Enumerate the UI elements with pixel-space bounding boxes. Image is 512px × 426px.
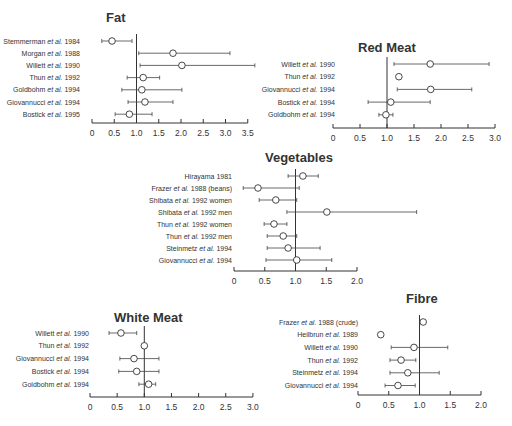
- study-row: Shibata et al. 1992 men: [158, 209, 417, 216]
- study-row: Willett et al. 1990: [35, 330, 136, 337]
- study-row: Giovannucci et al. 1994: [159, 257, 332, 264]
- study-row: Thun et al. 1992: [307, 357, 415, 364]
- study-row: Thun et al. 1992 men: [166, 233, 297, 240]
- study-label: Willett et al. 1990: [26, 62, 80, 69]
- study-label: Giovannucci et al. 1994: [159, 257, 232, 264]
- point-estimate-marker: [271, 221, 278, 228]
- x-tick-label: 2.5: [197, 128, 209, 138]
- study-row: Giovannucci et al. 1994: [16, 355, 159, 362]
- panel-title: Fibre: [406, 291, 438, 306]
- point-estimate-marker: [273, 197, 280, 204]
- study-label: Willett et al. 1990: [281, 61, 335, 68]
- x-tick-label: 1.5: [166, 402, 178, 412]
- x-tick-label: 0.5: [111, 402, 123, 412]
- study-row: Thun et al. 1992: [38, 342, 147, 349]
- study-label: Goldbohm et al. 1994: [22, 381, 89, 388]
- study-label: Willett et al. 1990: [304, 344, 358, 351]
- study-label: Shibata et al. 1992 women: [149, 197, 232, 204]
- x-tick-label: 2.0: [175, 128, 187, 138]
- point-estimate-marker: [280, 233, 287, 240]
- x-tick-label: 0: [232, 276, 237, 286]
- panel-fat: Fat Stemmerman et al. 1984Morgan et al. …: [3, 10, 255, 138]
- study-label: Shibata et al. 1992 men: [158, 209, 232, 216]
- study-row: Frazer et al. 1988 (crude): [279, 319, 426, 327]
- study-label: Bostick et al. 1994: [278, 99, 335, 106]
- x-tick-label: 0.5: [383, 400, 395, 410]
- x-tick-label: 0.5: [108, 128, 120, 138]
- x-tick-label: 1.0: [414, 400, 426, 410]
- point-estimate-marker: [179, 62, 186, 69]
- study-label: Steinmetz et al. 1994: [166, 245, 232, 252]
- x-tick-label: 0.5: [354, 133, 366, 143]
- point-estimate-marker: [293, 257, 300, 264]
- study-label: Morgan et al. 1988: [22, 50, 80, 58]
- study-label: Willett et al. 1990: [35, 330, 89, 337]
- study-row: Bostick et al. 1995: [23, 111, 152, 118]
- point-estimate-marker: [405, 370, 412, 377]
- study-label: Thun et al. 1992: [307, 357, 358, 364]
- point-estimate-marker: [131, 355, 138, 362]
- study-row: Willett et al. 1990: [281, 61, 489, 68]
- x-tick-label: 1.0: [138, 402, 150, 412]
- study-row: Goldbohm et al. 1994: [13, 86, 182, 93]
- x-axis: 00.51.01.52.0: [232, 267, 364, 286]
- panel-vegetables: Vegetables Hirayama 1981Frazer et al. 19…: [149, 150, 417, 286]
- forest-plot-figure: Fat Stemmerman et al. 1984Morgan et al. …: [0, 0, 512, 426]
- x-axis: 00.51.01.52.02.53.0: [331, 124, 502, 143]
- point-estimate-marker: [411, 344, 418, 351]
- study-label: Hirayama 1981: [185, 173, 233, 181]
- panel-title: Vegetables: [265, 150, 333, 165]
- study-label: Giovannucci et al. 1994: [262, 86, 335, 93]
- point-estimate-marker: [139, 87, 146, 94]
- x-tick-label: 0: [356, 400, 361, 410]
- study-label: Frazer et al. 1988 (beans): [151, 185, 232, 193]
- x-axis: 00.51.01.52.0: [356, 391, 488, 410]
- x-tick-label: 3.5: [242, 128, 254, 138]
- x-tick-label: 2.0: [435, 133, 447, 143]
- point-estimate-marker: [126, 111, 133, 118]
- study-row: Thun et al. 1992 women: [157, 221, 287, 228]
- study-row: Steinmetz et al. 1994: [166, 245, 320, 252]
- x-tick-label: 2.0: [193, 402, 205, 412]
- point-estimate-marker: [133, 368, 140, 375]
- point-estimate-marker: [377, 331, 384, 338]
- point-estimate-marker: [109, 38, 116, 45]
- x-axis: 00.51.01.52.02.53.03.5: [90, 119, 254, 138]
- panel-title: Red Meat: [358, 40, 416, 55]
- panel-title: Fat: [106, 10, 126, 25]
- point-estimate-marker: [145, 381, 152, 388]
- panel-fibre: Fibre Frazer et al. 1988 (crude)Heilbrun…: [279, 291, 487, 410]
- x-tick-label: 0.5: [259, 276, 271, 286]
- x-tick-label: 2.0: [475, 400, 487, 410]
- study-row: Willett et al. 1990: [26, 62, 255, 69]
- study-row: Thun et al. 1992: [29, 74, 159, 81]
- point-estimate-marker: [398, 357, 405, 364]
- point-estimate-marker: [255, 185, 262, 192]
- point-estimate-marker: [118, 330, 125, 337]
- study-label: Thun et al. 1992 women: [157, 221, 232, 228]
- x-tick-label: 1.0: [131, 128, 143, 138]
- x-tick-label: 0: [88, 402, 93, 412]
- point-estimate-marker: [140, 74, 147, 81]
- study-row: Thun et al. 1992: [284, 73, 402, 80]
- study-label: Thun et al. 1992: [284, 73, 335, 80]
- point-estimate-marker: [387, 99, 394, 106]
- study-label: Bostick et al. 1994: [32, 368, 89, 375]
- study-row: Shibata et al. 1992 women: [149, 197, 297, 204]
- study-label: Thun et al. 1992 men: [166, 233, 232, 240]
- study-label: Stemmerman et al. 1984: [3, 38, 80, 45]
- study-row: Heilbrun et al. 1989: [297, 331, 384, 338]
- x-tick-label: 2.5: [462, 133, 474, 143]
- study-row: Willett et al. 1990: [304, 344, 448, 351]
- x-tick-label: 2.5: [220, 402, 232, 412]
- x-tick-label: 1.0: [381, 133, 393, 143]
- x-tick-label: 1.5: [153, 128, 165, 138]
- x-axis: 00.51.01.52.02.53.0: [88, 393, 259, 412]
- study-label: Giovannucci et al. 1994: [16, 355, 89, 362]
- point-estimate-marker: [383, 112, 390, 119]
- study-row: Giovannucci et al. 1994: [285, 382, 415, 389]
- panel-title: White Meat: [114, 310, 183, 325]
- x-tick-label: 2.0: [351, 276, 363, 286]
- study-label: Goldbohm et al. 1994: [268, 111, 335, 118]
- study-label: Bostick et al. 1995: [23, 111, 80, 118]
